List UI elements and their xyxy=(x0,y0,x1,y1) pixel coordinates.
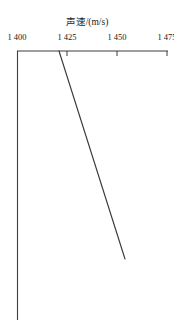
sound-speed-profile-chart: 声速/(m/s) 1 400 1 425 1 450 1 475 xyxy=(0,0,174,327)
sound-speed-curve xyxy=(59,51,125,259)
chart-plot-area xyxy=(0,0,174,327)
